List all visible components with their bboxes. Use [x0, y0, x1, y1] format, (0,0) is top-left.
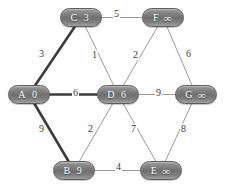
graph-edge: [29, 18, 81, 95]
graph-node-g[interactable]: G∞: [175, 85, 217, 104]
graph-edge: [74, 95, 118, 171]
edge-weight-label: 9: [155, 88, 162, 98]
graph-edge: [118, 95, 161, 171]
edge-weight-label: 1: [91, 50, 98, 60]
edge-weight-label: 7: [130, 124, 137, 134]
node-distance-label: ∞: [163, 13, 173, 23]
node-distance-label: 3: [82, 12, 92, 23]
graph-node-f[interactable]: F∞: [142, 8, 184, 27]
graph-edge: [29, 95, 74, 171]
graph-node-a[interactable]: A0: [8, 85, 50, 104]
graph-node-b[interactable]: B9: [53, 161, 95, 180]
edge-weight-label: 4: [115, 162, 122, 172]
edge-weight-label: 5: [113, 9, 120, 19]
node-distance-label: ∞: [197, 90, 207, 100]
node-id-label: A: [18, 89, 26, 100]
node-distance-label: 0: [30, 89, 40, 100]
node-distance-label: 6: [119, 89, 129, 100]
node-id-label: E: [151, 165, 158, 176]
edge-weight-label: 8: [180, 124, 187, 134]
graph-diagram: 531266992784 C3F∞A0D6G∞B9E∞: [0, 0, 225, 190]
edge-weight-label: 2: [132, 50, 139, 60]
node-id-label: D: [107, 89, 115, 100]
node-id-label: F: [153, 12, 159, 23]
graph-node-d[interactable]: D6: [97, 85, 139, 104]
edge-weight-label: 6: [185, 49, 192, 59]
graph-edge: [81, 18, 118, 95]
graph-node-e[interactable]: E∞: [140, 161, 182, 180]
node-id-label: C: [70, 12, 77, 23]
edge-weight-label: 3: [38, 49, 45, 59]
graph-node-c[interactable]: C3: [60, 8, 102, 27]
node-id-label: G: [185, 89, 193, 100]
edge-weight-label: 2: [87, 124, 94, 134]
node-distance-label: 9: [75, 165, 85, 176]
graph-edge: [161, 95, 196, 171]
graph-edge: [118, 18, 163, 95]
edge-weight-label: 6: [72, 88, 79, 98]
node-distance-label: ∞: [161, 166, 171, 176]
edge-weight-label: 9: [38, 124, 45, 134]
node-id-label: B: [63, 165, 70, 176]
